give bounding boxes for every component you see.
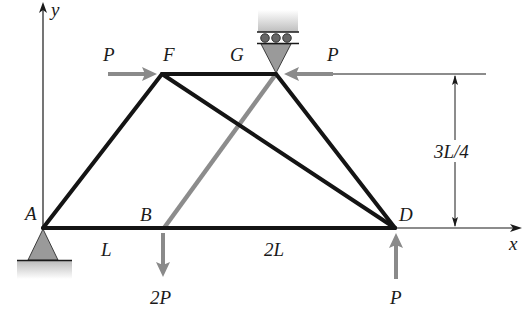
y-axis <box>39 2 47 228</box>
node-label-d: D <box>399 205 413 224</box>
pin-support-a <box>17 229 72 279</box>
x-axis-label: x <box>509 234 517 253</box>
dimension-label-bd: 2L <box>264 240 284 259</box>
load-arrow-d <box>389 233 403 279</box>
load-arrow-b <box>156 233 170 277</box>
dimension-label-ab: L <box>101 240 112 259</box>
dimension-label-height: 3L/4 <box>434 142 469 161</box>
member-fd <box>162 74 395 228</box>
roller-support-g <box>257 10 299 73</box>
node-label-b: B <box>140 205 152 224</box>
node-label-a: A <box>25 204 37 223</box>
node-label-f: F <box>163 45 175 64</box>
load-label-f: P <box>103 45 115 64</box>
load-label-d: P <box>390 288 402 307</box>
node-label-g: G <box>230 45 244 64</box>
y-axis-label: y <box>51 0 59 19</box>
load-arrow-g <box>284 67 333 81</box>
member-bg <box>164 74 276 228</box>
x-axis <box>395 224 522 232</box>
load-label-b: 2P <box>150 288 171 307</box>
member-gd <box>276 74 395 228</box>
load-arrow-f <box>108 67 157 81</box>
load-label-g: P <box>327 45 339 64</box>
